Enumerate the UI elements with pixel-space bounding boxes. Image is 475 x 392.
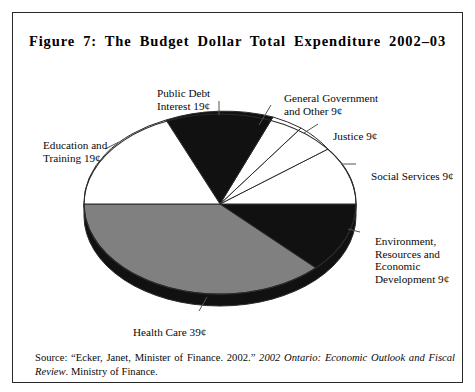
pie-label-health-care: Health Care 39¢	[133, 326, 206, 339]
leader-line-justice	[304, 124, 318, 133]
source-suffix: . Ministry of Finance.	[66, 366, 158, 377]
pie-label-general-government: General Government and Other 9¢	[284, 92, 378, 117]
figure-frame: Figure 7: The Budget Dollar Total Expend…	[12, 12, 463, 383]
pie-slices	[84, 111, 356, 294]
pie-label-justice: Justice 9¢	[333, 130, 377, 143]
pie-label-social-services: Social Services 9¢	[371, 170, 454, 183]
pie-label-education: Education and Training 19¢	[43, 139, 107, 164]
pie-label-public-debt: Public Debt Interest 19¢	[157, 87, 210, 112]
source-note: Source: “Ecker, Janet, Minister of Finan…	[35, 351, 455, 379]
source-prefix: Source: “Ecker, Janet, Minister of Finan…	[35, 352, 259, 363]
pie-chart: Public Debt Interest 19¢ General Governm…	[13, 13, 464, 384]
pie-chart-svg	[1, 1, 475, 392]
pie-label-environment: Environment, Resources and Economic Deve…	[375, 235, 449, 285]
